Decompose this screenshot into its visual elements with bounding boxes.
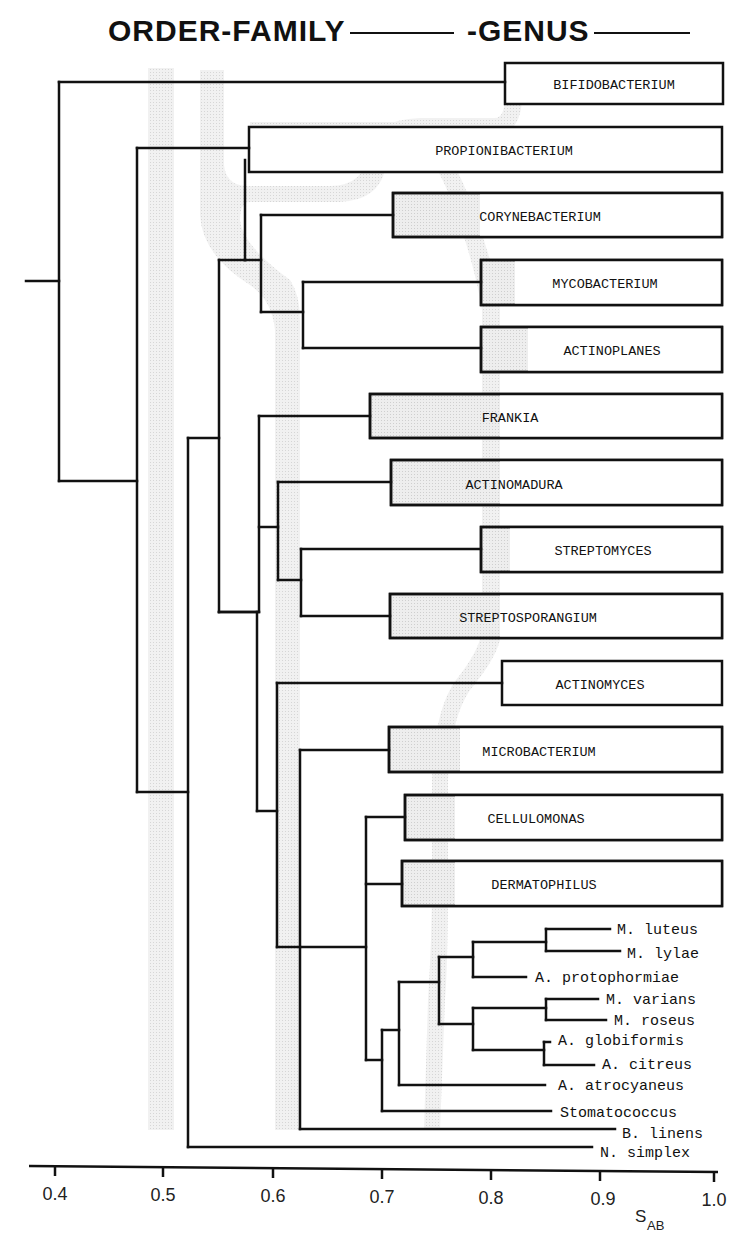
label-m-luteus: M. luteus xyxy=(617,922,698,939)
label-b-linens: B. linens xyxy=(622,1126,703,1143)
label-mycobacterium: MYCOBACTERIUM xyxy=(552,277,657,292)
tick-0-5: 0.5 xyxy=(150,1185,175,1205)
species-labels: M. luteus M. lylae A. protophormiae M. v… xyxy=(535,922,703,1162)
label-m-lylae: M. lylae xyxy=(627,946,699,963)
axis-label-sub: AB xyxy=(647,1218,664,1233)
label-streptosporangium: STREPTOSPORANGIUM xyxy=(459,611,597,626)
label-bifidobacterium: BIFIDOBACTERIUM xyxy=(553,78,675,93)
label-stomatococcus: Stomatococcus xyxy=(560,1105,677,1122)
label-propionibacterium: PROPIONIBACTERIUM xyxy=(435,144,573,159)
label-frankia: FRANKIA xyxy=(482,411,540,426)
tick-0-6: 0.6 xyxy=(260,1186,285,1206)
tick-0-8: 0.8 xyxy=(478,1188,503,1208)
label-n-simplex: N. simplex xyxy=(600,1145,690,1162)
label-actinomadura: ACTINOMADURA xyxy=(465,478,563,493)
tick-0-9: 0.9 xyxy=(590,1189,615,1209)
label-m-roseus: M. roseus xyxy=(614,1013,695,1030)
x-axis xyxy=(29,1166,718,1182)
band-order-level xyxy=(148,68,174,1130)
label-a-citreus: A. citreus xyxy=(602,1057,692,1074)
x-axis-ticks: 0.4 0.5 0.6 0.7 0.8 0.9 1.0 xyxy=(42,1184,726,1210)
label-dermatophilus: DERMATOPHILUS xyxy=(491,878,596,893)
label-a-atrocyaneus: A. atrocyaneus xyxy=(558,1078,684,1095)
tick-0-4: 0.4 xyxy=(42,1184,67,1204)
label-streptomyces: STREPTOMYCES xyxy=(554,544,651,559)
dendrogram: BIFIDOBACTERIUM PROPIONIBACTERIUM CORYNE… xyxy=(0,0,745,1236)
label-a-globiformis: A. globiformis xyxy=(558,1033,684,1050)
axis-label-s: S xyxy=(635,1207,646,1226)
tick-0-7: 0.7 xyxy=(369,1187,394,1207)
label-microbacterium: MICROBACTERIUM xyxy=(482,745,595,760)
label-actinoplanes: ACTINOPLANES xyxy=(563,344,660,359)
tick-1-0: 1.0 xyxy=(701,1190,726,1210)
label-corynebacterium: CORYNEBACTERIUM xyxy=(479,210,601,225)
x-axis-line xyxy=(29,1166,718,1172)
x-axis-label: S AB xyxy=(635,1207,664,1233)
label-cellulomonas: CELLULOMONAS xyxy=(487,812,584,827)
label-a-protophormiae: A. protophormiae xyxy=(535,970,679,987)
label-actinomyces: ACTINOMYCES xyxy=(555,678,644,693)
label-m-varians: M. varians xyxy=(606,992,696,1009)
